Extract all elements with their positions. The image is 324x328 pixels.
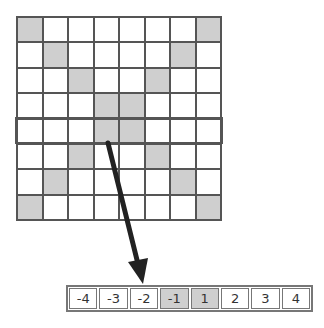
grid-cell: [145, 119, 171, 144]
grid-cell: [43, 17, 69, 42]
strip-cell: -2: [130, 288, 158, 309]
grid-cell: [17, 68, 43, 93]
grid-cell: [68, 195, 94, 220]
grid-cell: [170, 68, 196, 93]
strip-cell: 4: [282, 288, 310, 309]
grid-cell: [17, 119, 43, 144]
grid-cell: [196, 119, 222, 144]
grid-cell: [145, 68, 171, 93]
grid-cell: [43, 195, 69, 220]
grid-cell: [119, 68, 145, 93]
grid-cell: [17, 144, 43, 169]
grid-cell: [170, 93, 196, 118]
grid-cell: [68, 144, 94, 169]
grid-cell: [94, 68, 120, 93]
strip-cell: -4: [69, 288, 97, 309]
strip-cell: 3: [251, 288, 279, 309]
grid-cell: [145, 93, 171, 118]
grid-cell: [94, 17, 120, 42]
grid-cell: [68, 68, 94, 93]
grid-cell: [94, 119, 120, 144]
grid-cell: [170, 17, 196, 42]
grid-cell: [119, 93, 145, 118]
strip-cell: 1: [191, 288, 219, 309]
grid-cell: [196, 93, 222, 118]
grid-cell: [170, 144, 196, 169]
grid-cell: [17, 42, 43, 67]
strip-cell: -1: [160, 288, 188, 309]
grid-cell: [170, 42, 196, 67]
grid-cell: [170, 169, 196, 194]
grid-cell: [119, 17, 145, 42]
grid-cell: [145, 195, 171, 220]
grid-cell: [94, 93, 120, 118]
grid-cell: [43, 93, 69, 118]
grid-cell: [17, 17, 43, 42]
grid-cell: [17, 93, 43, 118]
grid-cell: [68, 169, 94, 194]
grid-cell: [94, 144, 120, 169]
grid-cell: [68, 93, 94, 118]
number-strip: -4-3-2-11234: [66, 285, 313, 312]
grid-cell: [43, 42, 69, 67]
grid-cell: [94, 42, 120, 67]
grid-cell: [119, 195, 145, 220]
grid-cell: [94, 169, 120, 194]
grid-cell: [170, 119, 196, 144]
grid-cell: [170, 195, 196, 220]
grid-cell: [196, 68, 222, 93]
grid-cell: [196, 195, 222, 220]
grid-cell: [145, 17, 171, 42]
grid-cell: [119, 42, 145, 67]
grid-cell: [17, 169, 43, 194]
grid-cell: [119, 144, 145, 169]
grid-cell: [145, 144, 171, 169]
grid-cell: [119, 119, 145, 144]
grid-cell: [145, 42, 171, 67]
grid-cell: [196, 17, 222, 42]
grid-cell: [43, 119, 69, 144]
grid-cell: [196, 144, 222, 169]
pixel-grid: [16, 16, 222, 221]
grid-cell: [94, 195, 120, 220]
grid-cell: [17, 195, 43, 220]
grid-cell: [145, 169, 171, 194]
grid-cell: [43, 169, 69, 194]
grid-cell: [43, 144, 69, 169]
strip-cell: 2: [221, 288, 249, 309]
grid-cell: [68, 17, 94, 42]
grid-cell: [119, 169, 145, 194]
grid-cell: [196, 169, 222, 194]
grid-cell: [68, 42, 94, 67]
strip-cell: -3: [99, 288, 127, 309]
grid-cell: [43, 68, 69, 93]
grid-cell: [68, 119, 94, 144]
grid-cell: [196, 42, 222, 67]
